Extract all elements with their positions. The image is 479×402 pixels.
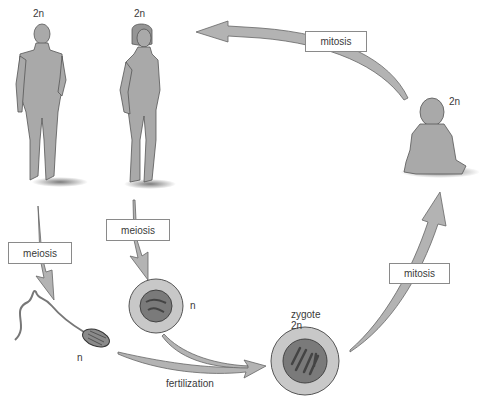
sperm-cell	[15, 291, 112, 350]
male-figure	[16, 24, 88, 187]
female-figure	[120, 24, 176, 189]
zygote-label: zygote	[291, 310, 320, 320]
baby-ploidy-label: 2n	[449, 97, 460, 107]
zygote-cell	[271, 327, 339, 395]
meiosis-box-male: meiosis	[8, 242, 72, 264]
fertilization-label: fertilization	[166, 379, 214, 389]
female-ploidy-label: 2n	[134, 9, 145, 19]
baby-figure	[400, 98, 479, 178]
meiosis-box-female: meiosis	[106, 219, 170, 241]
egg-cell	[129, 279, 183, 333]
zygote-ploidy-label: 2n	[291, 321, 302, 331]
sperm-ploidy-label: n	[77, 353, 83, 363]
mitosis-box-right: mitosis	[389, 263, 450, 284]
mitosis-box-top: mitosis	[305, 31, 367, 52]
life-cycle-diagram	[0, 0, 479, 402]
egg-ploidy-label: n	[190, 301, 196, 311]
male-ploidy-label: 2n	[33, 9, 44, 19]
mitosis-arrow-top	[196, 21, 408, 100]
